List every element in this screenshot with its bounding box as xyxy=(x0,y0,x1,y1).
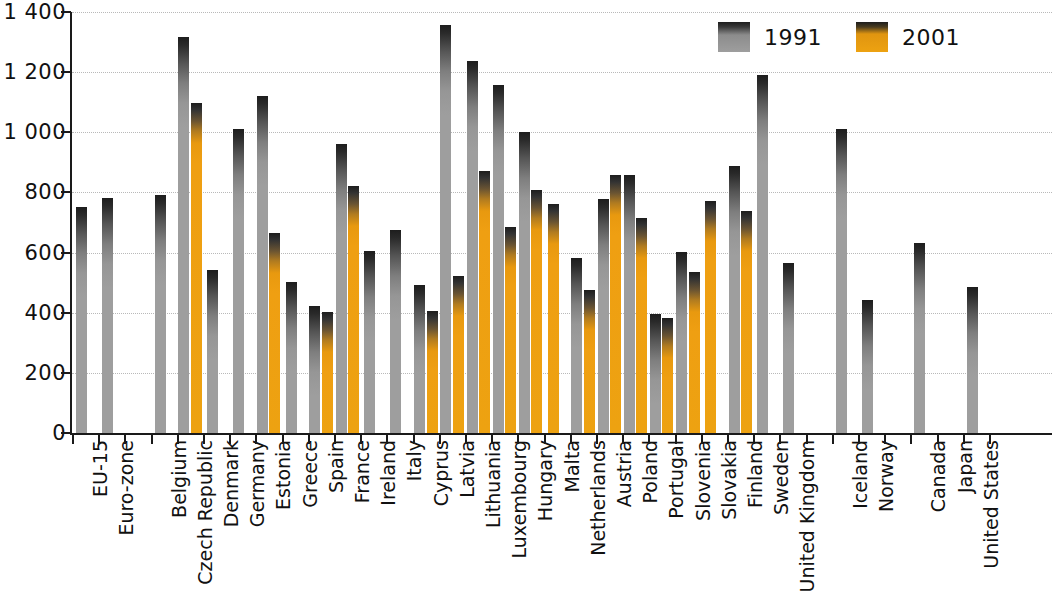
legend-swatch xyxy=(718,22,750,52)
bar-fill xyxy=(427,311,438,434)
bar-2001 xyxy=(636,218,647,435)
x-tick-label: Euro-zone xyxy=(117,440,136,536)
bar-2001 xyxy=(191,103,202,434)
bar-1991 xyxy=(967,287,978,434)
bar-2001 xyxy=(505,227,516,434)
x-tick-mark xyxy=(648,435,650,444)
legend-label: 2001 xyxy=(902,25,960,50)
bar-fill xyxy=(914,243,925,434)
bar-fill xyxy=(414,285,425,434)
x-tick-label: Spain xyxy=(327,440,346,493)
gridline xyxy=(72,132,1052,133)
x-tick-label: Malta xyxy=(563,440,582,492)
x-tick-label: Slovakia xyxy=(720,440,739,520)
bar-2001 xyxy=(479,171,490,434)
x-tick-mark xyxy=(884,435,886,444)
x-tick-mark xyxy=(544,435,546,444)
bar-fill xyxy=(636,218,647,435)
gridline xyxy=(72,373,1052,374)
bar-1991 xyxy=(757,75,768,434)
bar-2001 xyxy=(610,175,621,434)
x-tick-label: Czech Republic xyxy=(196,440,215,585)
y-tick-mark xyxy=(61,432,71,434)
bar-fill xyxy=(571,258,582,434)
x-tick-label: Iceland xyxy=(851,440,870,509)
x-tick-label: Canada xyxy=(929,440,948,512)
x-tick-mark xyxy=(832,435,834,444)
bar-fill xyxy=(155,195,166,434)
y-tick-mark xyxy=(61,252,71,254)
x-tick-label: Denmark xyxy=(222,440,241,527)
x-tick-mark xyxy=(334,435,336,444)
bar-1991 xyxy=(729,166,740,434)
bar-1991 xyxy=(493,85,504,434)
x-tick-label: Lithuania xyxy=(484,440,503,528)
y-tick-mark xyxy=(61,312,71,314)
x-tick-mark xyxy=(937,435,939,444)
bar-1991 xyxy=(519,132,530,434)
legend-entry[interactable]: 2001 xyxy=(856,22,960,52)
y-tick-label: 200 xyxy=(24,361,66,385)
bar-fill xyxy=(967,287,978,434)
bar-fill xyxy=(76,207,87,434)
legend-swatch xyxy=(856,22,888,52)
bar-fill xyxy=(689,272,700,434)
x-axis-labels: EU-15Euro-zoneBelgiumCzech RepublicDenma… xyxy=(0,440,1054,611)
x-tick-label: Portugal xyxy=(667,440,686,519)
bar-1991 xyxy=(257,96,268,434)
x-tick-label: EU-15 xyxy=(91,440,110,497)
bar-fill xyxy=(390,230,401,434)
bar-1991 xyxy=(364,251,375,434)
bar-2001 xyxy=(427,311,438,434)
x-tick-label: Belgium xyxy=(170,440,189,518)
bar-1991 xyxy=(440,25,451,434)
bar-2001 xyxy=(548,204,559,434)
bar-fill xyxy=(286,282,297,434)
x-tick-mark xyxy=(622,435,624,444)
bar-1991 xyxy=(862,300,873,434)
bar-1991 xyxy=(624,175,635,434)
y-tick-mark xyxy=(61,131,71,133)
bar-chart: 02004006008001 0001 2001 400 EU-15Euro-z… xyxy=(0,0,1054,611)
x-tick-mark xyxy=(989,435,991,444)
bar-fill xyxy=(662,318,673,434)
x-tick-label: Norway xyxy=(877,440,896,512)
x-tick-mark xyxy=(465,435,467,444)
y-tick-label: 1 400 xyxy=(3,0,66,24)
bar-fill xyxy=(479,171,490,434)
x-tick-label: Luxembourg xyxy=(510,440,529,558)
x-tick-mark xyxy=(701,435,703,444)
x-tick-mark xyxy=(779,435,781,444)
legend-entry[interactable]: 1991 xyxy=(718,22,822,52)
x-tick-mark xyxy=(753,435,755,444)
x-tick-label: Austria xyxy=(615,440,634,507)
x-tick-label: United Kingdom xyxy=(798,440,817,593)
bar-fill xyxy=(322,312,333,434)
bar-fill xyxy=(467,61,478,434)
x-tick-mark xyxy=(203,435,205,444)
bar-fill xyxy=(233,129,244,434)
x-tick-label: Estonia xyxy=(274,440,293,510)
y-tick-mark xyxy=(61,71,71,73)
y-tick-label: 800 xyxy=(24,180,66,204)
gridline xyxy=(72,192,1052,193)
bar-1991 xyxy=(178,37,189,434)
bar-fill xyxy=(453,276,464,434)
gridline xyxy=(72,72,1052,73)
bar-1991 xyxy=(286,282,297,434)
x-tick-mark xyxy=(72,435,74,444)
bar-1991 xyxy=(914,243,925,434)
bar-2001 xyxy=(322,312,333,434)
x-tick-label: Greece xyxy=(301,440,320,508)
bar-1991 xyxy=(467,61,478,434)
x-tick-label: France xyxy=(353,440,372,503)
bar-1991 xyxy=(650,314,661,434)
x-tick-mark xyxy=(858,435,860,444)
bar-fill xyxy=(364,251,375,434)
y-tick-mark xyxy=(61,372,71,374)
x-tick-mark xyxy=(386,435,388,444)
bar-fill xyxy=(178,37,189,434)
x-tick-label: United States xyxy=(982,440,1001,569)
bar-1991 xyxy=(155,195,166,434)
bar-fill xyxy=(207,270,218,434)
